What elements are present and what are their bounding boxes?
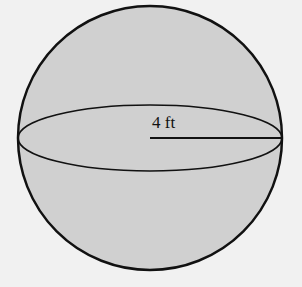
sphere-figure: 4 ft <box>0 0 302 287</box>
radius-label: 4 ft <box>152 113 175 132</box>
sphere-diagram: 4 ft <box>0 0 302 287</box>
